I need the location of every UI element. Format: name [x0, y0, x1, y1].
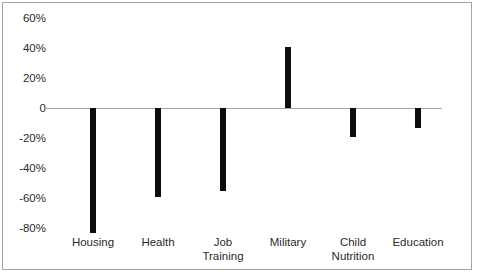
y-axis-tick-minus20: -20%	[0, 132, 46, 144]
bar-job-training	[220, 108, 226, 191]
y-axis-tick-label: 0	[2, 102, 46, 114]
bar-health	[155, 108, 161, 197]
y-axis-tick-minus40: -40%	[0, 162, 46, 174]
y-axis-tick-label: -80%	[2, 222, 46, 234]
zero-axis-line	[45, 108, 442, 109]
bar-education	[415, 108, 421, 128]
chart-container: 60% 40% 20% 0 -20% -40% -60% -80%	[0, 0, 485, 277]
y-axis-tick-label: 20%	[2, 72, 46, 84]
bar-military	[285, 47, 291, 109]
bar-child-nutrition	[350, 108, 356, 137]
x-axis-label-education: Education	[376, 236, 460, 250]
y-axis-tick-20: 20%	[0, 72, 46, 84]
y-axis-tick-label: -20%	[2, 132, 46, 144]
y-axis-tick-label: -60%	[2, 192, 46, 204]
plot-area: 60% 40% 20% 0 -20% -40% -60% -80%	[0, 0, 472, 270]
y-axis-tick-minus60: -60%	[0, 192, 46, 204]
bar-housing	[90, 108, 96, 233]
y-axis-tick-60: 60%	[0, 12, 46, 24]
y-axis-tick-40: 40%	[0, 42, 46, 54]
y-axis-tick-label: 40%	[2, 42, 46, 54]
y-axis-tick-label: -40%	[2, 162, 46, 174]
y-axis-tick-label: 60%	[2, 12, 46, 24]
y-axis-tick-0: 0	[0, 102, 46, 114]
y-axis-tick-minus80: -80%	[0, 222, 46, 234]
